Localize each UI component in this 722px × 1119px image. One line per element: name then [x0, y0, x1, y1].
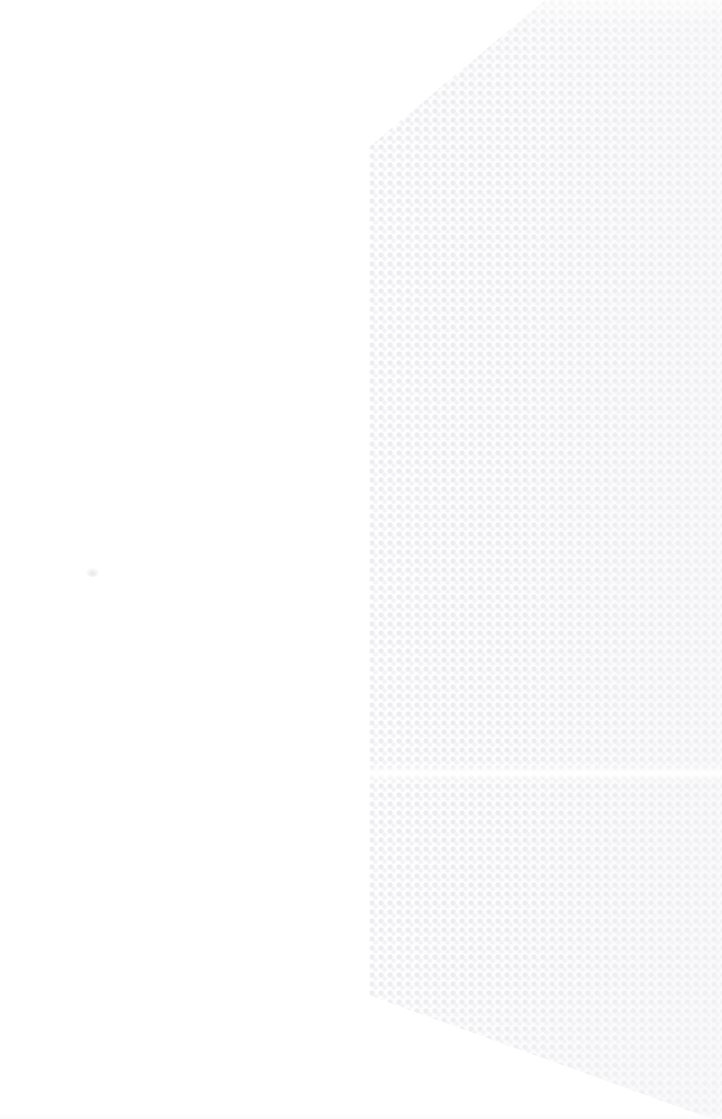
page-bottom-edge-tone [0, 1113, 722, 1119]
paper-background [0, 0, 722, 1119]
scanned-page: Blank scanned page with faint halftone s… [0, 0, 722, 1119]
dust-speck-artifact [86, 568, 99, 577]
